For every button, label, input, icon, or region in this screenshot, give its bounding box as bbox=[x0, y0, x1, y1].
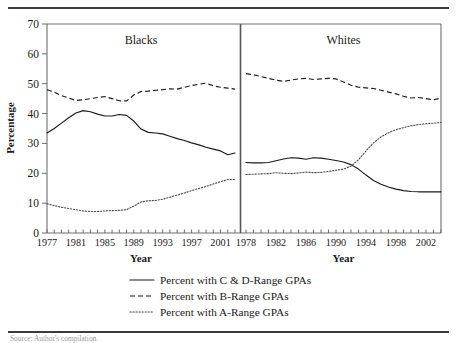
y-tick-label: 30 bbox=[28, 137, 40, 149]
panel-title-blacks: Blacks bbox=[125, 33, 158, 47]
legend-label-dashed: Percent with B-Range GPAs bbox=[160, 290, 289, 302]
y-tick-label: 70 bbox=[28, 18, 40, 30]
x-tick-label: 1978 bbox=[236, 237, 256, 248]
legend: Percent with C & D-Range GPAsPercent wit… bbox=[130, 274, 311, 318]
x-tick-label: 1989 bbox=[124, 237, 144, 248]
y-tick-label: 10 bbox=[28, 197, 40, 209]
y-tick-label: 50 bbox=[28, 78, 40, 90]
figure-container: 010203040506070Percentage197719811985198… bbox=[0, 0, 457, 343]
x-tick-label: 1985 bbox=[95, 237, 115, 248]
series-line-solid bbox=[246, 158, 441, 192]
x-tick-label: 2002 bbox=[416, 237, 436, 248]
chart-svg: 010203040506070Percentage197719811985198… bbox=[0, 0, 457, 343]
x-tick-label: 1982 bbox=[266, 237, 286, 248]
x-axis-title: Year bbox=[333, 252, 355, 264]
source-note: Source: Author's compilation. bbox=[10, 334, 98, 343]
panel-whites: 1978198219861990199419982002WhitesYear bbox=[236, 33, 441, 264]
series-line-dashed bbox=[47, 83, 235, 101]
x-tick-label: 1990 bbox=[326, 237, 346, 248]
legend-label-dotted: Percent with A-Range GPAs bbox=[160, 306, 289, 318]
panel-title-whites: Whites bbox=[327, 33, 361, 47]
y-axis: 010203040506070 bbox=[28, 18, 48, 239]
x-tick-label: 1993 bbox=[153, 237, 173, 248]
y-tick-label: 40 bbox=[28, 108, 40, 120]
x-tick-label: 1981 bbox=[66, 237, 86, 248]
y-tick-label: 60 bbox=[28, 48, 40, 60]
x-tick-label: 1997 bbox=[181, 237, 201, 248]
series-line-solid bbox=[47, 111, 235, 155]
y-axis-title: Percentage bbox=[4, 102, 16, 154]
x-tick-label: 1986 bbox=[296, 237, 316, 248]
series-line-dotted bbox=[47, 180, 235, 212]
y-tick-label: 20 bbox=[28, 167, 40, 179]
series-line-dotted bbox=[246, 123, 441, 175]
x-axis-title: Year bbox=[130, 252, 152, 264]
x-tick-label: 1994 bbox=[356, 237, 376, 248]
legend-label-solid: Percent with C & D-Range GPAs bbox=[160, 274, 311, 286]
x-tick-label: 1998 bbox=[386, 237, 406, 248]
panel-blacks: 1977198119851989199319972001BlacksYear bbox=[37, 33, 235, 264]
x-tick-label: 2001 bbox=[210, 237, 230, 248]
x-tick-label: 1977 bbox=[37, 237, 57, 248]
series-line-dashed bbox=[246, 74, 441, 100]
